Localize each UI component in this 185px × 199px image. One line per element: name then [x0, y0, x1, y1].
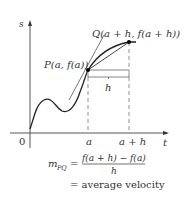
point-q-label: Q(a + h, f(a + h)) [92, 28, 180, 39]
h-bracket [88, 74, 129, 79]
x-tick-a: a [86, 136, 92, 147]
formula-denominator: h [111, 166, 117, 176]
x-axis-label: t [163, 137, 168, 148]
point-p-label: P(a, f(a)) [43, 59, 88, 70]
point-q [127, 40, 131, 44]
position-curve [30, 42, 136, 129]
formula-average-velocity: = average velocity [70, 179, 165, 190]
secant-velocity-diagram: s t 0 P(a, f(a)) Q(a + h, f(a + h)) h a … [0, 0, 185, 199]
formula-numerator: f(a + h) − f(a) [81, 153, 146, 163]
origin-label: 0 [19, 136, 25, 147]
y-axis-arrow-icon [28, 20, 32, 26]
x-axis-arrow-icon [163, 131, 169, 135]
x-tick-a-plus-h: a + h [119, 136, 146, 147]
secant-line-pq [88, 42, 129, 70]
formula-slope-subscript: PQ [56, 164, 67, 172]
formula-equals: = [70, 158, 78, 169]
y-axis-label: s [19, 19, 24, 29]
h-label: h [105, 82, 111, 93]
